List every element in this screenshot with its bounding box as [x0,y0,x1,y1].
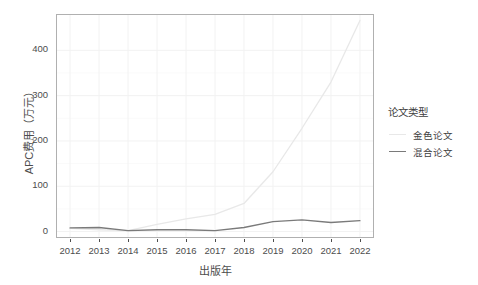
y-tick-label: 300 [14,90,48,100]
x-tick-mark [360,239,361,242]
legend-key-line-icon [388,143,407,160]
x-tick-label: 2022 [340,245,380,256]
y-tick-label: 400 [14,44,48,54]
x-axis-title: 出版年 [56,262,374,278]
chart-figure: APC费用（万元） 0100200300400 2012201320142015… [0,0,478,285]
legend-items: 金色论文混合论文 [388,126,474,160]
legend-item-label: 混合论文 [413,145,453,159]
y-tick-label: 200 [14,135,48,145]
x-tick-mark [244,239,245,242]
y-tick-label: 100 [14,180,48,190]
x-tick-mark [331,239,332,242]
legend-item[interactable]: 混合论文 [388,143,474,160]
legend-key-line-icon [388,126,407,143]
y-tick-label: 0 [14,226,48,236]
x-tick-mark [157,239,158,242]
legend-item[interactable]: 金色论文 [388,126,474,143]
x-tick-mark [128,239,129,242]
x-tick-mark [273,239,274,242]
plot-area-svg [57,15,373,237]
legend-title: 论文类型 [388,104,474,119]
x-tick-mark [215,239,216,242]
legend: 论文类型 金色论文混合论文 [388,104,474,160]
legend-item-label: 金色论文 [413,128,453,142]
y-axis-ticks: 0100200300400 [10,0,48,285]
x-tick-mark [186,239,187,242]
x-tick-mark [302,239,303,242]
x-tick-mark [99,239,100,242]
plot-panel [56,14,374,238]
x-tick-mark [70,239,71,242]
